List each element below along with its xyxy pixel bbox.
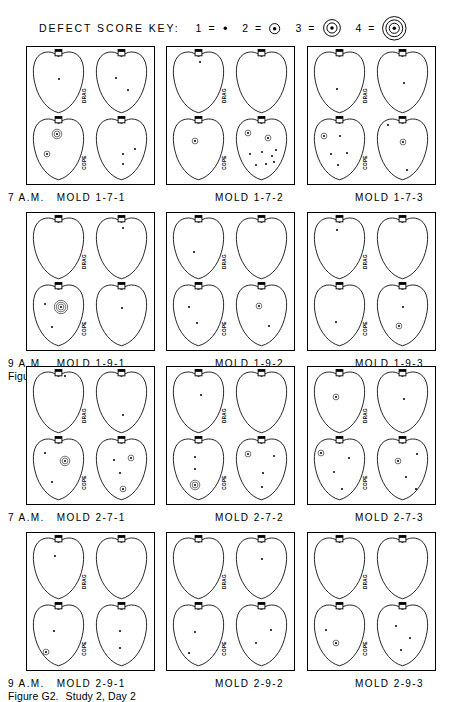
mold-shape-bottom-right[interactable] (374, 282, 431, 348)
defect-mark-score-1 (51, 628, 57, 634)
mold-panel[interactable]: DRAGCOPE (166, 46, 295, 185)
mold-shape-top-right[interactable] (93, 369, 150, 435)
mold-shape-top-left[interactable] (311, 49, 368, 115)
mold-panel[interactable]: DRAGCOPE (166, 532, 295, 671)
mold-shape-bottom-left[interactable] (30, 282, 87, 348)
defect-mark-score-1 (117, 470, 123, 476)
defect-mark-score-1 (266, 323, 272, 329)
mold-panel[interactable]: DRAGCOPE (26, 46, 155, 185)
mold-shape-bottom-left[interactable] (170, 116, 227, 182)
mold-shape-bottom-left[interactable] (311, 282, 368, 348)
mold-shape-bottom-left[interactable] (170, 436, 227, 502)
mold-shape-top-left[interactable] (170, 49, 227, 115)
mold-shape-top-right[interactable] (93, 535, 150, 601)
mold-panel[interactable]: DRAGCOPE (166, 366, 295, 505)
mold-shape-top-left[interactable] (311, 215, 368, 281)
defect-mark-score-1 (414, 452, 420, 458)
defect-mark-score-1 (49, 479, 55, 485)
mold-shape-bottom-right[interactable] (233, 282, 290, 348)
defect-mark-score-1 (331, 469, 337, 475)
mold-shape-top-left[interactable] (170, 535, 227, 601)
mold-shape-bottom-right[interactable] (93, 436, 150, 502)
mold-panel[interactable]: DRAGCOPE (26, 212, 155, 351)
mold-shape-top-right[interactable] (374, 49, 431, 115)
defect-mark-score-1 (247, 151, 253, 157)
mold-caption: MOLD 1-7-2 (215, 192, 284, 203)
mold-shape-bottom-right[interactable] (93, 602, 150, 668)
half-label-drag: DRAG (82, 251, 87, 273)
defect-mark-score-1 (404, 167, 410, 173)
mold-shape-top-left[interactable] (30, 215, 87, 281)
mold-shape-top-right[interactable] (233, 49, 290, 115)
defect-mark-score-1 (269, 153, 275, 159)
panel-row-9AM: DRAGCOPEDRAGCOPEDRAGCOPE (0, 530, 461, 678)
mold-panel[interactable]: DRAGCOPE (26, 532, 155, 671)
defect-mark-score-1 (271, 453, 277, 459)
mold-grid: DRAGCOPE (27, 367, 154, 504)
mold-shape-top-right[interactable] (93, 215, 150, 281)
mold-shape-top-right[interactable] (374, 369, 431, 435)
mold-panel[interactable]: DRAGCOPE (307, 366, 436, 505)
mold-shape-bottom-left[interactable] (30, 602, 87, 668)
mold-grid: DRAGCOPE (27, 47, 154, 184)
mold-id-label: MOLD 1-7-3 (355, 192, 424, 203)
session-time-label: 7 A.M. (8, 192, 45, 203)
mold-panel[interactable]: DRAGCOPE (26, 366, 155, 505)
mold-shape-bottom-left[interactable] (170, 282, 227, 348)
mold-shape-top-left[interactable] (311, 535, 368, 601)
mold-shape-top-right[interactable] (233, 369, 290, 435)
mold-shape-bottom-left[interactable] (311, 436, 368, 502)
mold-shape-bottom-right[interactable] (233, 116, 290, 182)
defect-mark-score-2 (331, 638, 341, 648)
half-label-drag: DRAG (82, 405, 87, 427)
mold-grid: DRAGCOPE (308, 367, 435, 504)
half-label-cope: COPE (222, 472, 227, 494)
mold-shape-top-left[interactable] (30, 49, 87, 115)
mold-panel[interactable]: DRAGCOPE (307, 212, 436, 351)
mold-caption: MOLD 1-7-3 (355, 192, 424, 203)
figure-number: Figure G2. (8, 690, 59, 702)
mold-panel[interactable]: DRAGCOPE (166, 212, 295, 351)
mold-shape-top-left[interactable] (30, 535, 87, 601)
mold-shape-bottom-right[interactable] (374, 436, 431, 502)
figure-caption: Figure G2.Study 2, Day 2 (8, 690, 136, 702)
half-label-cope: COPE (82, 318, 87, 340)
mold-shape-bottom-left[interactable] (311, 602, 368, 668)
mold-shape-top-right[interactable] (233, 535, 290, 601)
half-label-cope: COPE (363, 152, 368, 174)
defect-mark-score-2 (319, 131, 329, 141)
mold-shape-bottom-left[interactable] (30, 116, 87, 182)
mold-id-label: MOLD 2-9-1 (57, 678, 126, 689)
half-label-cope: COPE (222, 152, 227, 174)
mold-shape-top-left[interactable] (170, 215, 227, 281)
defect-mark-score-1 (117, 628, 123, 634)
mold-shape-top-right[interactable] (233, 215, 290, 281)
score-2-dot-one-ring-icon (267, 21, 282, 36)
mold-shape-bottom-right[interactable] (233, 602, 290, 668)
mold-shape-bottom-right[interactable] (93, 282, 150, 348)
mold-shape-bottom-right[interactable] (233, 436, 290, 502)
defect-score-key-title: DEFECT SCORE KEY: (39, 22, 180, 34)
mold-shape-top-right[interactable] (374, 535, 431, 601)
mold-shape-bottom-right[interactable] (93, 116, 150, 182)
mold-panel[interactable]: DRAGCOPE (307, 46, 436, 185)
mold-caption: MOLD 2-9-3 (355, 678, 424, 689)
half-label-cope: COPE (363, 638, 368, 660)
mold-panel[interactable]: DRAGCOPE (307, 532, 436, 671)
mold-shape-top-right[interactable] (374, 215, 431, 281)
mold-shape-bottom-left[interactable] (30, 436, 87, 502)
mold-shape-bottom-right[interactable] (374, 602, 431, 668)
mold-shape-top-left[interactable] (30, 369, 87, 435)
mold-shape-bottom-left[interactable] (311, 116, 368, 182)
mold-shape-top-right[interactable] (93, 49, 150, 115)
defect-mark-score-1 (334, 227, 340, 233)
mold-shape-top-left[interactable] (170, 369, 227, 435)
defect-mark-score-1 (52, 553, 58, 559)
defect-mark-score-1 (197, 59, 203, 65)
defect-key-equals: = (208, 22, 214, 34)
mold-shape-top-left[interactable] (311, 369, 368, 435)
session-time-label: 9 A.M. (8, 678, 45, 689)
mold-shape-bottom-right[interactable] (374, 116, 431, 182)
defect-mark-score-1 (273, 147, 279, 153)
mold-shape-bottom-left[interactable] (170, 602, 227, 668)
